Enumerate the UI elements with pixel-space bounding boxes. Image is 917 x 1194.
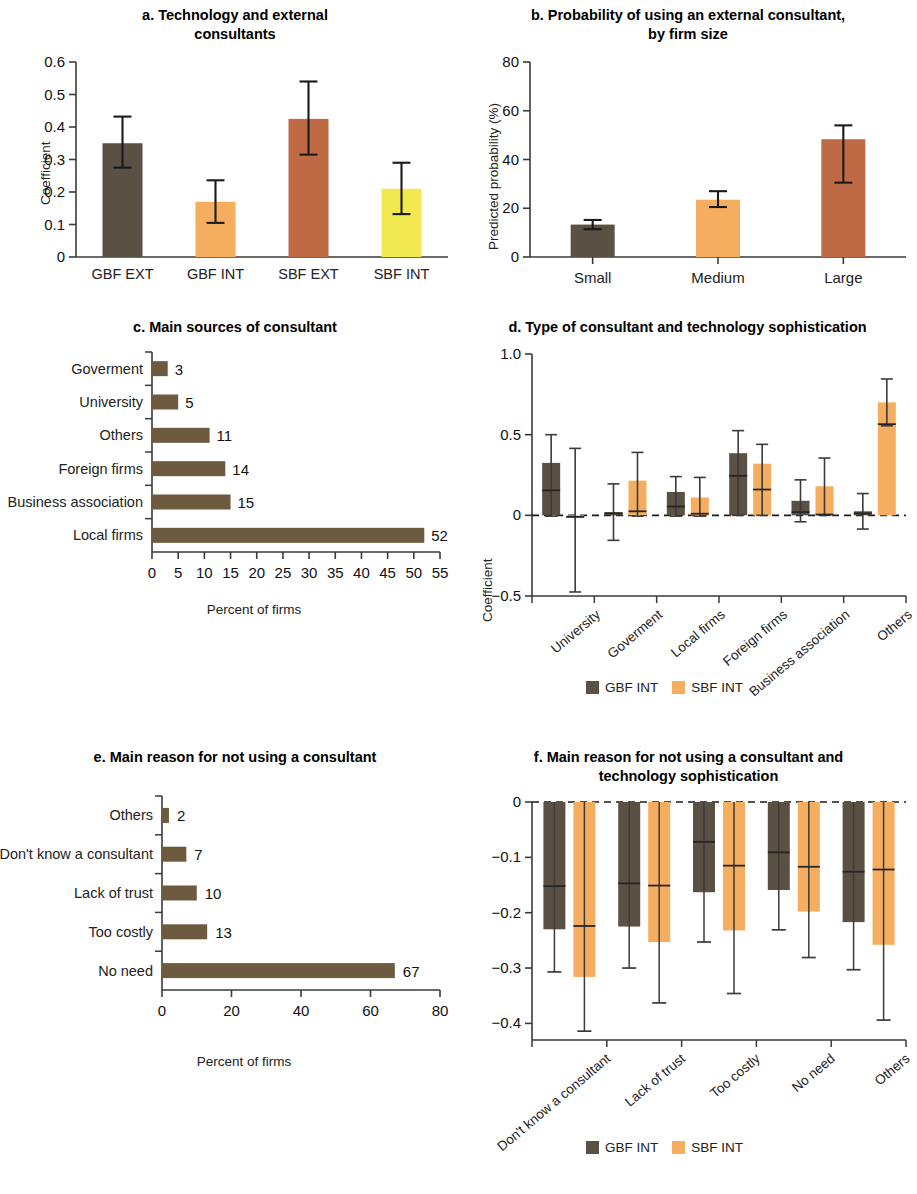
panel-d-plot: −0.500.51.0UniversityGovermentLocal firm… bbox=[458, 340, 917, 680]
panel-e-y-tick-label: Lack of trust bbox=[74, 885, 153, 901]
panel-b-y-tick-label: 20 bbox=[502, 199, 519, 216]
panel-e-y-tick-label: Others bbox=[109, 807, 153, 823]
panel-b-x-tick-label: Large bbox=[824, 269, 862, 286]
panel-c-x-tick-label: 10 bbox=[196, 564, 213, 581]
panel-a-x-tick-label: SBF EXT bbox=[278, 266, 339, 282]
panel-e-x-tick-label: 40 bbox=[293, 1002, 310, 1019]
panel-c-data-label: 5 bbox=[185, 394, 193, 411]
panel-d-x-tick-label: Others bbox=[874, 607, 915, 645]
panel-a-x-tick-label: GBF INT bbox=[187, 266, 244, 282]
panel-c-x-tick-label: 50 bbox=[405, 564, 422, 581]
panel-c-y-tick-label: Local firms bbox=[73, 527, 143, 543]
legend-swatch-sbf-int-f bbox=[672, 1141, 685, 1154]
panel-e-bar bbox=[162, 808, 169, 823]
panel-c-x-tick-label: 30 bbox=[301, 564, 318, 581]
panel-c-y-tick-label: University bbox=[79, 394, 143, 410]
panel-a-y-tick-label: 0 bbox=[57, 248, 65, 265]
panel-e-data-label: 67 bbox=[403, 963, 420, 980]
panel-e-x-tick-label: 60 bbox=[362, 1002, 379, 1019]
panel-f-legend: GBF INT SBF INT bbox=[586, 1140, 743, 1155]
panel-d-x-tick-label: Goverment bbox=[605, 607, 666, 662]
panel-d: d. Type of consultant and technology sop… bbox=[458, 312, 917, 712]
panel-e-x-tick-label: 0 bbox=[158, 1002, 166, 1019]
panel-e-x-axis-title: Percent of firms bbox=[0, 1054, 458, 1069]
panel-e: e. Main reason for not using a consultan… bbox=[0, 742, 458, 1082]
panel-c-data-label: 14 bbox=[232, 461, 249, 478]
panel-c-data-label: 11 bbox=[217, 427, 233, 444]
panel-e-bar bbox=[162, 847, 186, 862]
panel-f-x-tick-label: Too costly bbox=[707, 1051, 763, 1101]
panel-a-plot: 00.10.20.30.40.50.6GBF EXTGBF INTSBF EXT… bbox=[0, 52, 458, 302]
panel-e-data-label: 10 bbox=[205, 885, 222, 902]
panel-c-data-label: 15 bbox=[238, 494, 255, 511]
panel-f-y-tick-label: −0.3 bbox=[491, 959, 521, 976]
panel-a-y-tick-label: 0.3 bbox=[44, 151, 65, 168]
panel-c-x-tick-label: 25 bbox=[275, 564, 292, 581]
panel-e-bar bbox=[162, 924, 207, 939]
panel-c-bar bbox=[152, 361, 168, 376]
panel-a-x-tick-label: SBF INT bbox=[374, 266, 430, 282]
panel-a-y-tick-label: 0.6 bbox=[44, 53, 65, 70]
panel-b-y-tick-label: 60 bbox=[502, 102, 519, 119]
legend-item-gbf-int: GBF INT bbox=[586, 680, 658, 695]
panel-e-y-tick-label: Don't know a consultant bbox=[0, 846, 153, 862]
panel-f-y-tick-label: −0.2 bbox=[491, 904, 521, 921]
panel-d-y-tick-label: 1.0 bbox=[500, 345, 521, 362]
panel-d-x-tick-label: Local firms bbox=[668, 607, 728, 661]
legend-label-sbf-int: SBF INT bbox=[691, 680, 743, 695]
panel-d-y-tick-label: −0.5 bbox=[491, 587, 521, 604]
panel-c-bar bbox=[152, 495, 231, 510]
panel-b-plot: 020406080SmallMediumLarge bbox=[458, 52, 917, 302]
panel-b-bar bbox=[696, 200, 740, 257]
panel-f-x-tick-label: Lack of trust bbox=[622, 1051, 688, 1110]
panel-e-data-label: 7 bbox=[194, 846, 202, 863]
panel-d-title: d. Type of consultant and technology sop… bbox=[460, 318, 915, 337]
panel-c: c. Main sources of consultant 0510152025… bbox=[0, 312, 458, 642]
panel-d-x-tick-label: University bbox=[548, 607, 603, 657]
panel-e-data-label: 13 bbox=[215, 924, 232, 941]
panel-a-y-tick-label: 0.5 bbox=[44, 86, 65, 103]
legend-swatch-gbf-int bbox=[586, 681, 599, 694]
panel-c-x-tick-label: 40 bbox=[353, 564, 370, 581]
panel-c-data-label: 3 bbox=[175, 361, 183, 378]
panel-c-y-tick-label: Others bbox=[99, 427, 143, 443]
panel-a-x-tick-label: GBF EXT bbox=[91, 266, 153, 282]
panel-c-plot: 0510152025303540455055Goverment3Universi… bbox=[0, 338, 458, 598]
panel-f-x-tick-label: Don't know a consultant bbox=[494, 1051, 613, 1155]
panel-c-title: c. Main sources of consultant bbox=[40, 318, 430, 337]
panel-e-title: e. Main reason for not using a consultan… bbox=[20, 748, 450, 767]
legend-swatch-gbf-int-f bbox=[586, 1141, 599, 1154]
panel-c-x-tick-label: 35 bbox=[327, 564, 344, 581]
panel-a-y-tick-label: 0.1 bbox=[44, 216, 65, 233]
panel-b: b. Probability of using an external cons… bbox=[458, 0, 917, 305]
panel-f-y-tick-label: −0.1 bbox=[491, 848, 521, 865]
panel-c-x-axis-title: Percent of firms bbox=[0, 602, 458, 617]
panel-e-x-tick-label: 80 bbox=[432, 1002, 449, 1019]
panel-b-x-tick-label: Small bbox=[574, 269, 612, 286]
panel-a: a. Technology and external consultants C… bbox=[0, 0, 458, 305]
panel-d-y-tick-label: 0 bbox=[513, 506, 521, 523]
panel-c-y-tick-label: Goverment bbox=[71, 361, 143, 377]
panel-c-x-tick-label: 0 bbox=[148, 564, 156, 581]
legend-label-gbf-int-f: GBF INT bbox=[605, 1140, 658, 1155]
panel-b-y-tick-label: 0 bbox=[511, 248, 519, 265]
panel-e-x-tick-label: 20 bbox=[223, 1002, 240, 1019]
panel-c-x-tick-label: 20 bbox=[248, 564, 265, 581]
panel-c-x-tick-label: 45 bbox=[379, 564, 396, 581]
panel-b-x-tick-label: Medium bbox=[691, 269, 744, 286]
panel-d-x-tick-label: Business association bbox=[746, 607, 852, 700]
panel-e-data-label: 2 bbox=[177, 807, 185, 824]
panel-a-title: a. Technology and external consultants bbox=[60, 6, 410, 44]
panel-e-bar bbox=[162, 886, 197, 901]
panel-f-x-tick-label: Others bbox=[872, 1051, 913, 1089]
panel-a-y-tick-label: 0.2 bbox=[44, 183, 65, 200]
panel-f: f. Main reason for not using a consultan… bbox=[458, 742, 917, 1194]
panel-e-plot: 020406080Others2Don't know a consultant7… bbox=[0, 784, 458, 1029]
panel-f-x-tick-label: No need bbox=[789, 1051, 838, 1095]
panel-c-x-tick-label: 15 bbox=[222, 564, 239, 581]
legend-item-gbf-int-f: GBF INT bbox=[586, 1140, 658, 1155]
legend-label-sbf-int-f: SBF INT bbox=[691, 1140, 743, 1155]
panel-e-y-tick-label: Too costly bbox=[89, 924, 154, 940]
panel-f-plot: 0−0.1−0.2−0.3−0.4Don't know a consultant… bbox=[458, 790, 917, 1150]
panel-d-legend: GBF INT SBF INT bbox=[586, 680, 743, 695]
